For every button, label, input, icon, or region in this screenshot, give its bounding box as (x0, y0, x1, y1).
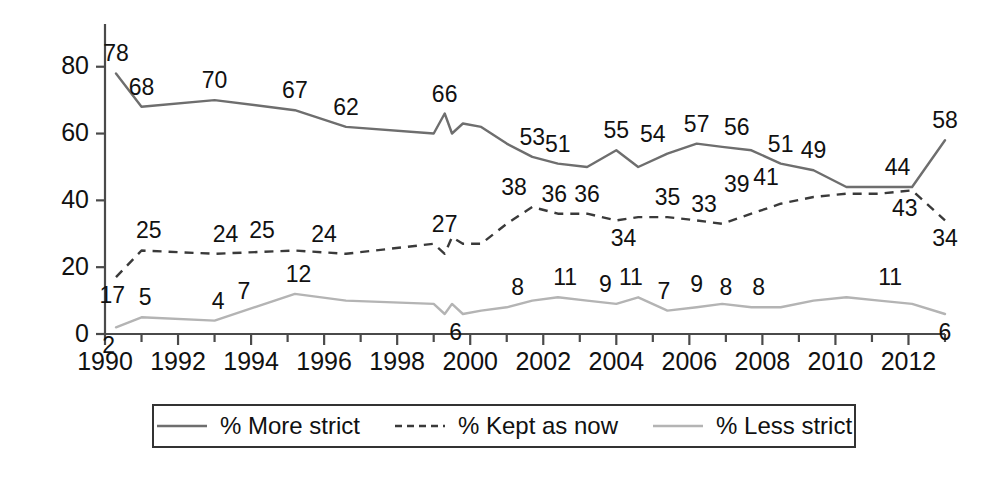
data-label-more_strict: 66 (432, 81, 458, 107)
data-label-more_strict: 54 (640, 121, 666, 147)
x-tick-label: 2006 (662, 347, 718, 375)
data-label-more_strict: 57 (684, 111, 710, 137)
data-label-kept_as_now: 34 (932, 225, 958, 251)
x-tick-label: 2002 (515, 347, 571, 375)
data-label-more_strict: 49 (801, 137, 827, 163)
legend-item-1[interactable]: % Kept as now (394, 412, 618, 440)
data-label-kept_as_now: 33 (691, 191, 717, 217)
data-label-less_strict: 9 (599, 271, 612, 297)
data-label-kept_as_now: 24 (311, 221, 337, 247)
chart-page: 0204060801990199219941996199820002002200… (0, 0, 990, 478)
data-label-more_strict: 67 (282, 77, 308, 103)
data-label-kept_as_now: 25 (249, 217, 275, 243)
data-label-less_strict: 7 (237, 278, 250, 304)
data-label-more_strict: 44 (885, 154, 911, 180)
y-tick-label: 40 (61, 185, 89, 213)
data-label-less_strict: 5 (139, 284, 152, 310)
solid-dark-line-icon (156, 419, 208, 433)
x-tick-label: 1994 (223, 347, 279, 375)
data-label-less_strict: 9 (690, 271, 703, 297)
x-tick-label: 2010 (808, 347, 864, 375)
legend-item-0[interactable]: % More strict (156, 412, 360, 440)
data-label-kept_as_now: 34 (611, 225, 637, 251)
chart-canvas: 0204060801990199219941996199820002002200… (0, 0, 990, 400)
x-tick-label: 2000 (442, 347, 498, 375)
x-tick-label: 2004 (588, 347, 644, 375)
data-label-less_strict: 8 (719, 274, 732, 300)
data-label-more_strict: 51 (545, 131, 571, 157)
data-label-less_strict: 12 (286, 261, 312, 287)
legend-item-2[interactable]: % Less strict (652, 412, 852, 440)
legend-label: % More strict (220, 412, 360, 440)
data-label-more_strict: 51 (768, 131, 794, 157)
data-label-less_strict: 27 (432, 211, 458, 237)
solid-light-line-icon (652, 419, 704, 433)
data-label-less_strict: 4 (212, 288, 225, 314)
data-label-kept_as_now: 17 (100, 282, 126, 308)
data-label-more_strict: 78 (103, 40, 129, 66)
data-label-less_strict: 8 (511, 274, 524, 300)
data-label-less_strict: 7 (657, 278, 670, 304)
data-label-kept_as_now: 38 (501, 174, 527, 200)
data-label-less_strict: 6 (449, 319, 462, 345)
y-tick-label: 80 (61, 51, 89, 79)
data-label-kept_as_now: 25 (136, 217, 162, 243)
y-tick-label: 20 (61, 252, 89, 280)
data-label-less_strict: 2 (102, 332, 115, 358)
legend-label: % Less strict (716, 412, 852, 440)
data-label-kept_as_now: 39 (724, 171, 750, 197)
x-tick-label: 2008 (735, 347, 791, 375)
data-label-more_strict: 53 (520, 124, 546, 150)
series-line-kept_as_now (116, 190, 945, 277)
data-label-less_strict: 8 (752, 274, 765, 300)
data-label-less_strict: 11 (619, 264, 643, 290)
line-chart-plot: 0204060801990199219941996199820002002200… (0, 0, 990, 400)
x-tick-label: 1992 (150, 347, 206, 375)
data-label-more_strict: 62 (333, 94, 359, 120)
data-label-kept_as_now: 41 (753, 164, 779, 190)
data-label-kept_as_now: 36 (541, 181, 567, 207)
x-tick-label: 2012 (881, 347, 937, 375)
data-label-more_strict: 70 (202, 67, 228, 93)
data-label-kept_as_now: 35 (655, 184, 681, 210)
data-label-more_strict: 68 (129, 74, 155, 100)
data-label-kept_as_now: 43 (892, 195, 918, 221)
data-label-kept_as_now: 36 (574, 181, 600, 207)
data-label-less_strict: 11 (553, 264, 577, 290)
data-label-less_strict: 6 (939, 319, 952, 345)
legend-label: % Kept as now (458, 412, 618, 440)
y-tick-label: 60 (61, 118, 89, 146)
chart-legend: % More strict% Kept as now% Less strict (152, 404, 856, 448)
dashed-line-icon (394, 419, 446, 433)
data-label-more_strict: 55 (604, 117, 630, 143)
x-tick-label: 1996 (296, 347, 352, 375)
data-label-kept_as_now: 24 (213, 221, 239, 247)
data-label-more_strict: 58 (932, 107, 958, 133)
x-tick-label: 1998 (369, 347, 425, 375)
data-label-less_strict: 11 (878, 264, 902, 290)
y-tick-label: 0 (75, 319, 89, 347)
data-label-more_strict: 56 (724, 114, 750, 140)
